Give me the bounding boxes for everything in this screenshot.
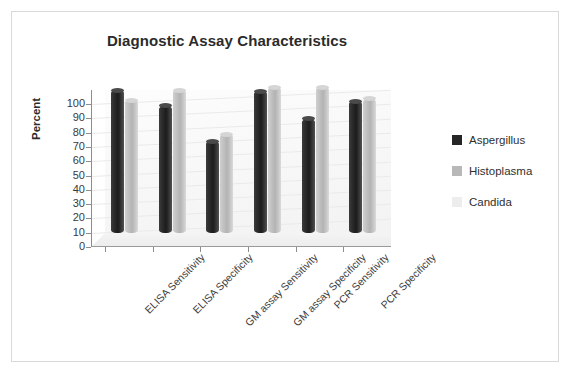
bar-histoplasma — [220, 134, 233, 233]
legend-swatch-icon — [452, 135, 462, 145]
legend-item-candida[interactable]: Candida — [452, 196, 572, 208]
bar-cap — [206, 139, 219, 144]
legend: AspergillusHistoplasmaCandida — [452, 134, 572, 227]
bar-aspergillus — [159, 106, 172, 233]
y-axis-tick-label: 50 — [45, 170, 85, 181]
legend-label: Candida — [469, 196, 512, 208]
y-axis-tick-label: 30 — [45, 198, 85, 209]
bar-cap — [254, 89, 267, 94]
plot-area — [91, 90, 391, 247]
y-axis-tick — [86, 204, 91, 205]
bar-histoplasma — [363, 99, 376, 233]
y-axis-tick — [86, 190, 91, 191]
y-axis-tick-label: 60 — [45, 155, 85, 166]
bar-cap — [173, 88, 186, 93]
y-axis-tick — [86, 118, 91, 119]
plot-floor — [91, 233, 391, 247]
y-axis-tick — [86, 218, 91, 219]
legend-item-aspergillus[interactable]: Aspergillus — [452, 134, 572, 146]
y-axis-tick — [86, 147, 91, 148]
legend-item-histoplasma[interactable]: Histoplasma — [452, 165, 572, 177]
y-axis-tick — [86, 104, 91, 105]
y-axis-tick-label: 40 — [45, 184, 85, 195]
y-axis-tick — [86, 133, 91, 134]
legend-label: Aspergillus — [469, 134, 525, 146]
bar-aspergillus — [349, 101, 362, 233]
y-axis-title: Percent — [30, 98, 42, 140]
bar-cap — [349, 99, 362, 104]
bar-histoplasma — [125, 100, 138, 233]
bar-cap — [302, 116, 315, 121]
bar-cap — [363, 96, 376, 101]
y-axis-tick-label: 100 — [45, 98, 85, 109]
bar-aspergillus — [111, 90, 124, 233]
bar-histoplasma — [173, 90, 186, 233]
plot-back-wall — [105, 90, 391, 241]
bar-histoplasma — [268, 87, 281, 233]
bar-cap — [125, 98, 138, 103]
chart-title: Diagnostic Assay Characteristics — [12, 32, 442, 49]
y-axis-line — [91, 90, 92, 247]
y-axis-tick-label: 20 — [45, 212, 85, 223]
y-axis-tick — [86, 233, 91, 234]
bar-aspergillus — [206, 141, 219, 233]
legend-swatch-icon — [452, 197, 462, 207]
y-axis-tick — [86, 247, 91, 248]
bar-cap — [316, 85, 329, 90]
y-axis-tick-label: 10 — [45, 227, 85, 238]
legend-swatch-icon — [452, 166, 462, 176]
bar-histoplasma — [316, 87, 329, 233]
x-axis-tick-labels: ELISA SensitivityELISA SpecificityGM ass… — [91, 251, 411, 341]
y-axis-tick-labels: 0102030405060708090100 — [43, 90, 85, 247]
y-axis-tick-label: 90 — [45, 112, 85, 123]
y-axis-tick — [86, 161, 91, 162]
bar-cap — [268, 85, 281, 90]
legend-label: Histoplasma — [469, 165, 532, 177]
chart-frame: Diagnostic Assay Characteristics Percent… — [11, 11, 559, 362]
bar-cap — [159, 103, 172, 108]
y-axis-tick-label: 70 — [45, 141, 85, 152]
bar-aspergillus — [302, 119, 315, 233]
x-axis-line — [91, 246, 391, 247]
y-axis-tick — [86, 176, 91, 177]
y-axis-tick-label: 0 — [45, 241, 85, 252]
bar-aspergillus — [254, 91, 267, 233]
y-axis-tick-label: 80 — [45, 127, 85, 138]
bar-cap — [220, 132, 233, 137]
bar-cap — [111, 88, 124, 93]
